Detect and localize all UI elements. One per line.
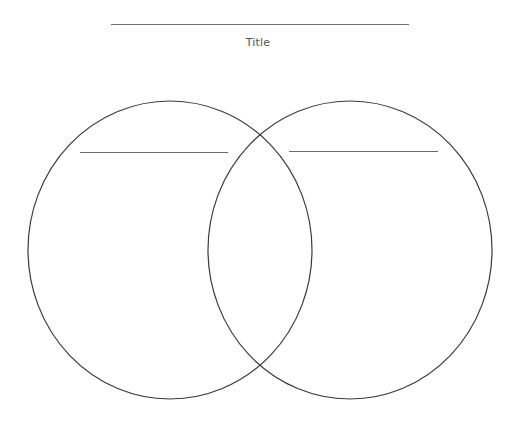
left-circle-heading-line[interactable] <box>80 152 228 153</box>
left-only-region[interactable] <box>50 175 200 365</box>
right-circle-heading-line[interactable] <box>289 151 438 152</box>
overlap-region[interactable] <box>215 175 305 325</box>
right-only-region[interactable] <box>320 175 470 365</box>
left-circle-heading-text[interactable] <box>80 136 228 150</box>
right-circle-heading-text[interactable] <box>289 135 438 149</box>
